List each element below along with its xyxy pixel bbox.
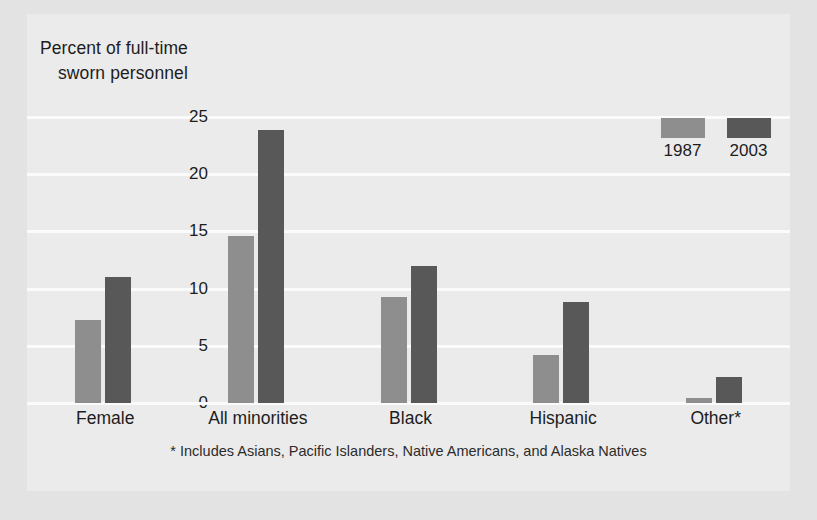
bar-2003-female <box>105 277 131 403</box>
bar-2003-all-minorities <box>258 130 284 403</box>
bar-1987-female <box>75 320 101 404</box>
y-axis-title: Percent of full-time sworn personnel <box>40 36 340 86</box>
bar-group-all-minorities <box>228 117 284 403</box>
x-axis-label-other: Other* <box>690 408 741 429</box>
legend-swatch-2003 <box>727 118 771 138</box>
bar-1987-other <box>686 398 712 403</box>
x-axis-label-black: Black <box>389 408 432 429</box>
bar-1987-black <box>381 297 407 403</box>
x-axis-labels: FemaleAll minoritiesBlackHispanicOther* <box>27 408 790 438</box>
legend-label-2003: 2003 <box>721 141 776 161</box>
legend-swatch-1987 <box>661 118 705 138</box>
y-axis-title-line-1: Percent of full-time <box>40 36 340 61</box>
chart-legend: 19872003 <box>655 118 790 168</box>
bar-group-hispanic <box>533 117 589 403</box>
bar-1987-all-minorities <box>228 236 254 403</box>
x-axis-label-hispanic: Hispanic <box>530 408 597 429</box>
bar-group-black <box>381 117 437 403</box>
chart-footnote: * Includes Asians, Pacific Islanders, Na… <box>27 443 790 459</box>
y-axis-title-line-2: sworn personnel <box>40 61 340 86</box>
bar-group-female <box>75 117 131 403</box>
bar-2003-other <box>716 377 742 403</box>
bar-2003-black <box>411 266 437 403</box>
bar-chart-figure: Percent of full-time sworn personnel 252… <box>0 0 817 520</box>
x-axis-label-all-minorities: All minorities <box>208 408 307 429</box>
legend-item-1987: 1987 <box>655 118 710 161</box>
x-axis-label-female: Female <box>76 408 134 429</box>
bar-1987-hispanic <box>533 355 559 403</box>
legend-label-1987: 1987 <box>655 141 710 161</box>
bar-2003-hispanic <box>563 302 589 403</box>
legend-item-2003: 2003 <box>721 118 776 161</box>
